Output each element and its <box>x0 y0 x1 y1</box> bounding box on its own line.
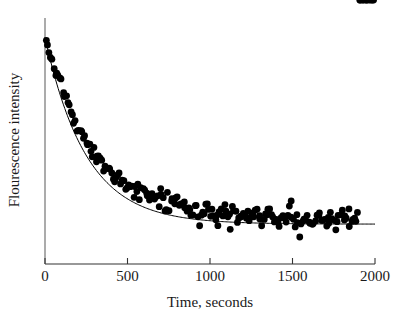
data-point <box>227 226 234 233</box>
data-point <box>283 219 290 226</box>
data-point <box>316 209 323 216</box>
data-point <box>193 202 200 209</box>
data-point <box>116 170 123 177</box>
data-point <box>91 144 98 151</box>
data-point <box>196 222 203 229</box>
data-point <box>354 209 361 216</box>
data-point <box>352 218 359 225</box>
data-point <box>304 212 311 219</box>
fit-curve <box>45 37 375 224</box>
data-point <box>296 234 303 241</box>
data-point <box>157 185 164 192</box>
data-point <box>174 193 181 200</box>
data-point <box>250 213 257 220</box>
data-point <box>164 189 171 196</box>
data-point <box>222 201 229 208</box>
data-point <box>294 211 301 218</box>
data-point <box>327 209 334 216</box>
data-point <box>98 157 105 164</box>
chart-figure: 0500100015002000 Time, seconds Flouresce… <box>0 0 409 325</box>
data-point <box>160 194 167 201</box>
data-point <box>258 222 265 229</box>
data-point <box>44 42 51 49</box>
data-point <box>63 92 70 99</box>
data-point <box>214 222 221 229</box>
data-point <box>209 206 216 213</box>
y-axis-title: Flourescence intensity <box>6 73 23 208</box>
x-tick-label: 0 <box>41 268 49 285</box>
data-point <box>136 196 143 203</box>
data-point <box>48 56 55 63</box>
data-point <box>69 111 76 118</box>
data-point <box>66 101 73 108</box>
x-tick-label: 2000 <box>360 268 390 285</box>
data-point <box>81 132 88 139</box>
data-point <box>166 207 173 214</box>
data-point <box>254 206 261 213</box>
data-point <box>332 226 339 233</box>
data-points <box>43 0 377 240</box>
x-tick-label: 1000 <box>195 268 225 285</box>
data-point <box>276 223 283 230</box>
x-axis-title: Time, seconds <box>167 294 253 311</box>
x-axis-ticks <box>45 258 375 264</box>
data-point <box>288 198 295 205</box>
x-tick-label: 500 <box>116 268 139 285</box>
x-tick-label: 1500 <box>278 268 308 285</box>
data-point <box>156 203 163 210</box>
data-point <box>72 117 79 124</box>
data-point <box>346 206 353 213</box>
data-point <box>334 218 341 225</box>
data-point <box>343 215 350 222</box>
data-point <box>58 76 65 83</box>
data-point <box>233 208 240 215</box>
